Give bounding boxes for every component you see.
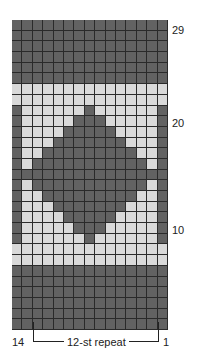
chart-cell <box>147 191 157 202</box>
stitch-label-right: 1 <box>163 336 169 348</box>
chart-cell <box>158 180 168 191</box>
chart-cell <box>54 116 64 127</box>
chart-cell <box>43 234 53 245</box>
chart-cell <box>43 244 53 255</box>
chart-cell <box>85 234 95 245</box>
chart-cell <box>158 277 168 288</box>
chart-cell <box>22 52 32 63</box>
chart-cell <box>12 148 22 159</box>
chart-cell <box>95 95 105 106</box>
chart-cell <box>106 191 116 202</box>
chart-cell <box>22 84 32 95</box>
chart-cell <box>33 41 43 52</box>
chart-cell <box>12 202 22 213</box>
chart-cell <box>22 159 32 170</box>
chart-cell <box>33 277 43 288</box>
chart-cell <box>137 41 147 52</box>
chart-cell <box>12 319 22 330</box>
chart-cell <box>106 202 116 213</box>
chart-cell <box>147 255 157 266</box>
chart-cell <box>43 138 53 149</box>
chart-cell <box>116 255 126 266</box>
chart-cell <box>126 148 136 159</box>
chart-cell <box>54 255 64 266</box>
chart-cell <box>95 255 105 266</box>
chart-cell <box>126 277 136 288</box>
chart-cell <box>33 106 43 117</box>
chart-cell <box>137 20 147 31</box>
chart-cell <box>137 255 147 266</box>
chart-cell <box>126 309 136 320</box>
chart-cell <box>85 223 95 234</box>
chart-cell <box>12 244 22 255</box>
chart-cell <box>33 309 43 320</box>
chart-cell <box>106 298 116 309</box>
chart-cell <box>126 180 136 191</box>
chart-cell <box>126 234 136 245</box>
chart-cell <box>126 287 136 298</box>
chart-cell <box>22 63 32 74</box>
chart-cell <box>64 266 74 277</box>
row-label-29: 29 <box>172 25 184 36</box>
chart-cell <box>33 31 43 42</box>
chart-cell <box>95 63 105 74</box>
chart-cell <box>147 52 157 63</box>
chart-cell <box>95 84 105 95</box>
chart-cell <box>147 244 157 255</box>
chart-cell <box>43 31 53 42</box>
chart-cell <box>22 244 32 255</box>
chart-cell <box>85 191 95 202</box>
chart-cell <box>106 148 116 159</box>
chart-cell <box>64 255 74 266</box>
chart-cell <box>64 63 74 74</box>
chart-cell <box>95 20 105 31</box>
chart-cell <box>12 106 22 117</box>
chart-cell <box>64 138 74 149</box>
chart-cell <box>22 106 32 117</box>
chart-cell <box>74 277 84 288</box>
chart-cell <box>74 212 84 223</box>
chart-cell <box>64 234 74 245</box>
chart-cell <box>85 298 95 309</box>
chart-cell <box>54 180 64 191</box>
chart-cell <box>64 180 74 191</box>
chart-cell <box>137 170 147 181</box>
chart-cell <box>43 52 53 63</box>
repeat-bracket-left <box>33 322 34 342</box>
chart-cell <box>85 180 95 191</box>
chart-cell <box>22 298 32 309</box>
chart-cell <box>33 223 43 234</box>
chart-cell <box>12 31 22 42</box>
chart-cell <box>158 116 168 127</box>
chart-cell <box>147 116 157 127</box>
chart-cell <box>12 63 22 74</box>
chart-cell <box>116 148 126 159</box>
chart-cell <box>12 266 22 277</box>
chart-cell <box>54 298 64 309</box>
chart-cell <box>116 31 126 42</box>
chart-cell <box>33 63 43 74</box>
chart-cell <box>43 159 53 170</box>
chart-cell <box>137 212 147 223</box>
chart-cell <box>137 234 147 245</box>
chart-cell <box>74 255 84 266</box>
chart-cell <box>12 116 22 127</box>
chart-cell <box>74 106 84 117</box>
chart-cell <box>74 191 84 202</box>
chart-cell <box>158 319 168 330</box>
chart-cell <box>116 127 126 138</box>
chart-cell <box>126 298 136 309</box>
chart-cell <box>12 298 22 309</box>
chart-cell <box>43 106 53 117</box>
chart-cell <box>64 73 74 84</box>
chart-cell <box>116 138 126 149</box>
chart-cell <box>33 234 43 245</box>
chart-cell <box>54 63 64 74</box>
chart-cell <box>64 95 74 106</box>
chart-cell <box>74 116 84 127</box>
chart-cell <box>95 180 105 191</box>
chart-cell <box>64 159 74 170</box>
chart-cell <box>106 52 116 63</box>
chart-cell <box>74 287 84 298</box>
chart-cell <box>22 277 32 288</box>
